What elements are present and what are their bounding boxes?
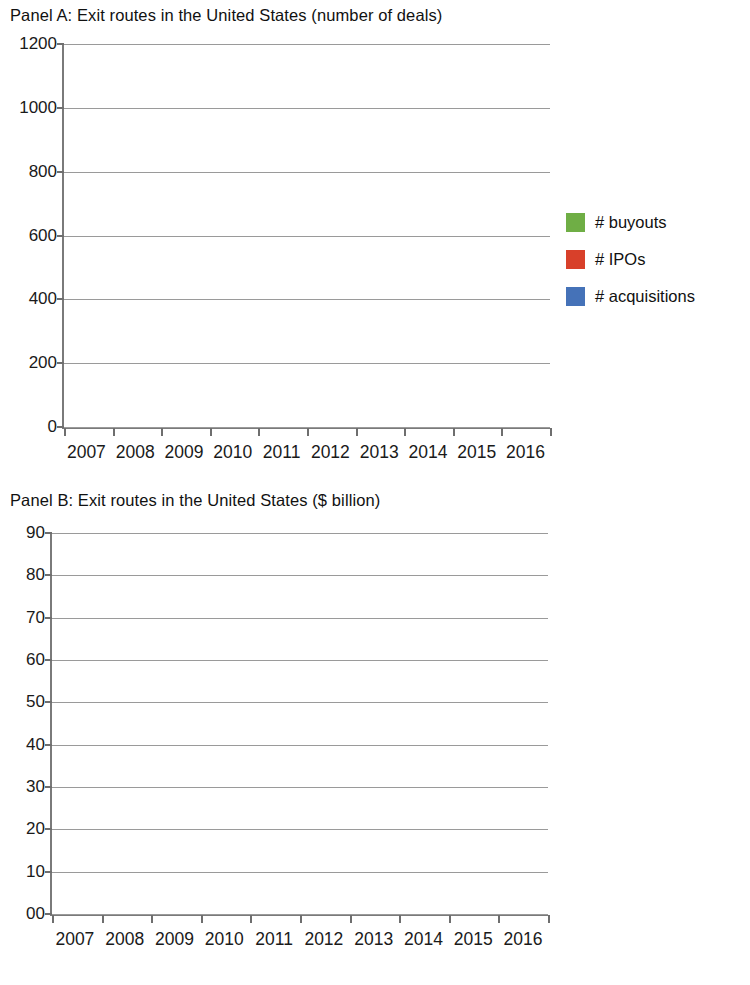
y-tick-mark: [45, 701, 52, 703]
y-tick-label: 0: [48, 417, 57, 437]
y-tick-label: 90: [26, 523, 45, 543]
x-tick-mark: [550, 428, 552, 436]
y-tick-label: 40: [26, 735, 45, 755]
x-axis-label: 2008: [100, 929, 150, 950]
x-axis-label: 2010: [199, 929, 249, 950]
y-tick-mark: [45, 828, 52, 830]
bar-slot: [201, 533, 251, 914]
y-tick-mark: [45, 617, 52, 619]
x-axis-label: 2013: [355, 442, 404, 463]
y-tick-mark: [57, 298, 64, 300]
y-tick-mark: [45, 532, 52, 534]
x-axis-label: 2014: [404, 442, 453, 463]
bar-slot: [300, 533, 350, 914]
legend-label: # acquisitions: [595, 287, 695, 306]
bar-slot: [258, 44, 307, 427]
bar-slot: [404, 44, 453, 427]
y-tick-mark: [57, 362, 64, 364]
y-tick-label: 60: [26, 650, 45, 670]
y-tick-label: 00: [26, 904, 45, 924]
y-tick-label: 600: [29, 226, 57, 246]
panel-b-axes: 00102030405060708090: [50, 533, 548, 916]
panel-b-x-axis-labels: 2007200820092010201120122013201420152016: [50, 929, 548, 950]
y-tick-label: 80: [26, 565, 45, 585]
x-tick-mark: [307, 428, 309, 436]
legend-item-buyouts: # buyouts: [566, 204, 695, 241]
x-tick-mark: [300, 915, 302, 923]
x-tick-mark: [449, 915, 451, 923]
x-axis-label: 2009: [160, 442, 209, 463]
bar-slot: [210, 44, 259, 427]
bar-slot: [161, 44, 210, 427]
bar-slot: [250, 533, 300, 914]
y-tick-mark: [45, 871, 52, 873]
bar-slot: [498, 533, 548, 914]
panel-a-title: Panel A: Exit routes in the United State…: [10, 6, 442, 25]
y-tick-label: 10: [26, 862, 45, 882]
legend-swatch-icon: [566, 287, 585, 306]
x-axis-label: 2008: [111, 442, 160, 463]
x-tick-mark: [453, 428, 455, 436]
x-axis-label: 2009: [150, 929, 200, 950]
legend-item-ipos: # IPOs: [566, 241, 695, 278]
panel-b-plot: 00102030405060708090 2007200820092010201…: [50, 533, 548, 916]
x-tick-mark: [151, 915, 153, 923]
legend-label: # buyouts: [595, 213, 667, 232]
x-axis-label: 2016: [501, 442, 550, 463]
x-axis-label: 2010: [208, 442, 257, 463]
legend-swatch-icon: [566, 213, 585, 232]
bar-slot: [64, 44, 113, 427]
panel-a-legend: # buyouts# IPOs# acquisitions: [566, 204, 695, 315]
x-tick-mark: [201, 915, 203, 923]
x-tick-mark: [113, 428, 115, 436]
y-tick-label: 70: [26, 608, 45, 628]
x-axis-label: 2011: [257, 442, 306, 463]
x-axis-label: 2015: [452, 442, 501, 463]
y-tick-mark: [57, 43, 64, 45]
x-tick-mark: [52, 915, 54, 923]
y-tick-mark: [57, 171, 64, 173]
bar-slot: [501, 44, 550, 427]
x-tick-mark: [210, 428, 212, 436]
x-axis-label: 2013: [349, 929, 399, 950]
y-tick-mark: [57, 235, 64, 237]
x-axis-label: 2007: [62, 442, 111, 463]
bar-slot: [151, 533, 201, 914]
y-tick-label: 400: [29, 289, 57, 309]
y-tick-label: 200: [29, 353, 57, 373]
x-tick-mark: [64, 428, 66, 436]
y-tick-label: 800: [29, 162, 57, 182]
panel-a-axes: 020040060080010001200: [62, 44, 550, 429]
x-axis-label: 2007: [50, 929, 100, 950]
panel-a-bars: [64, 44, 550, 427]
bar-slot: [453, 44, 502, 427]
x-tick-mark: [250, 915, 252, 923]
x-tick-mark: [102, 915, 104, 923]
x-tick-mark: [501, 428, 503, 436]
bar-slot: [350, 533, 400, 914]
panel-b-title: Panel B: Exit routes in the United State…: [10, 491, 380, 510]
x-tick-mark: [404, 428, 406, 436]
x-axis-label: 2011: [249, 929, 299, 950]
legend-item-acquisitions: # acquisitions: [566, 278, 695, 315]
y-tick-mark: [45, 913, 52, 915]
x-axis-label: 2012: [299, 929, 349, 950]
y-tick-label: 1000: [19, 98, 57, 118]
panel-b: Panel B: Exit routes in the United State…: [0, 485, 750, 985]
y-tick-mark: [45, 574, 52, 576]
panel-b-bars: [52, 533, 548, 914]
x-tick-mark: [350, 915, 352, 923]
y-tick-mark: [45, 744, 52, 746]
bar-slot: [52, 533, 102, 914]
y-tick-label: 20: [26, 819, 45, 839]
x-tick-mark: [498, 915, 500, 923]
x-tick-mark: [548, 915, 550, 923]
bar-slot: [307, 44, 356, 427]
panel-a: Panel A: Exit routes in the United State…: [0, 0, 750, 478]
bar-slot: [356, 44, 405, 427]
x-axis-label: 2012: [306, 442, 355, 463]
x-tick-mark: [258, 428, 260, 436]
bar-slot: [113, 44, 162, 427]
legend-label: # IPOs: [595, 250, 645, 269]
bar-slot: [449, 533, 499, 914]
